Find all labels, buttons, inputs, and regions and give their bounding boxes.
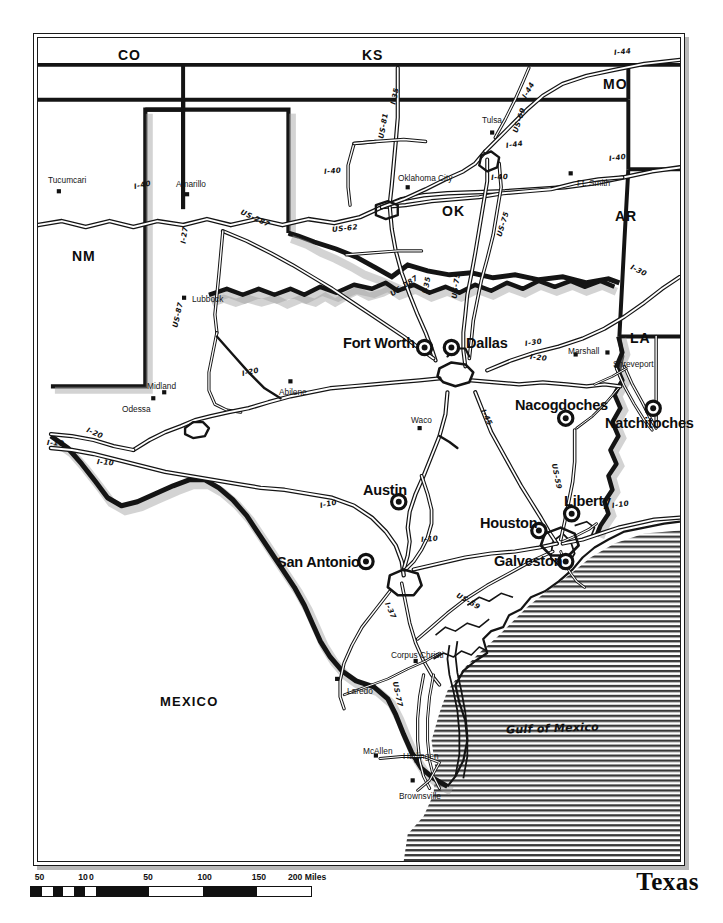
scale-segment-1 (42, 887, 53, 896)
highway-label-us-59-26: US-59 (550, 463, 562, 490)
city-label-liberty: Liberty (564, 494, 611, 509)
scale-segment-6 (96, 887, 150, 896)
highway-label-i-20-20: I-20 (241, 366, 259, 377)
highway-label-i-45-23: I-45 (480, 408, 494, 427)
gulf-of-mexico-label: Gulf of Mexico (506, 721, 599, 735)
city-label-dallas: Dallas (466, 336, 508, 351)
map-frame: COKSMOOKARNMLAMEXICOFort WorthDallasNaco… (33, 33, 685, 866)
scale-bar-tick-labels: 5010050100150200 Miles (30, 872, 330, 884)
city-label-abilene: Abilene (279, 388, 307, 396)
state-label-ar: AR (615, 209, 637, 223)
highway-label-i-44-2: I-44 (521, 81, 536, 100)
city-label-marshall: Marshall (568, 347, 599, 355)
city-label-lubbock: Lubbock (192, 295, 223, 303)
scale-segment-9 (257, 887, 311, 896)
highway-label-i-30-14: I-30 (629, 263, 648, 277)
map-label-layer: COKSMOOKARNMLAMEXICOFort WorthDallasNaco… (38, 38, 680, 861)
state-label-ok: OK (442, 204, 465, 218)
highway-label-i-10-24: I-10 (47, 439, 65, 447)
state-label-mo: MO (603, 77, 628, 91)
scale-segment-0 (31, 887, 42, 896)
scale-segment-7 (149, 887, 203, 896)
state-label-la: LA (630, 331, 651, 345)
scale-segment-3 (63, 887, 74, 896)
city-label-shreveport: Shreveport (613, 360, 654, 368)
highway-label-i-37-31: I-37 (384, 601, 398, 620)
city-label-tucumcari: Tucumcari (48, 176, 86, 184)
highway-label-i-30-19: I-30 (524, 338, 542, 348)
city-label-laredo: Laredo (347, 687, 373, 695)
scale-bar-segments (30, 886, 312, 897)
city-label-houston: Houston (480, 516, 537, 531)
state-label-nm: NM (72, 249, 96, 263)
scale-tick-1: 10 (78, 872, 88, 882)
city-label-galveston: Galveston (494, 554, 562, 569)
city-label-austin: Austin (363, 483, 407, 498)
city-label-fort-worth: Fort Worth (343, 336, 415, 351)
city-label-odessa: Odessa (122, 405, 151, 413)
scale-bar: 5010050100150200 Miles (30, 872, 330, 906)
city-label-natchitoches: Natchitoches (605, 416, 694, 431)
highway-label-i-20-21: I-20 (530, 353, 548, 362)
highway-label-i-40-9: I-40 (133, 179, 151, 190)
highway-label-i-10-29: I-10 (611, 500, 629, 510)
highway-label-us-75-13: US-75 (496, 211, 510, 238)
city-label-corpus-christi: Corpus Christi (391, 651, 444, 659)
city-label-waco: Waco (411, 416, 432, 424)
map-frame-inner-border: COKSMOOKARNMLAMEXICOFort WorthDallasNaco… (37, 37, 681, 862)
scale-tick-4: 100 (198, 872, 212, 882)
city-label-harlingen: Harlingen (403, 752, 439, 760)
city-label-tulsa: Tulsa (482, 116, 502, 124)
scale-tick-6: 200 Miles (288, 872, 326, 882)
scale-segment-8 (203, 887, 257, 896)
highway-label-i-40-4: I-40 (324, 167, 342, 176)
scale-tick-2: 0 (89, 872, 94, 882)
highway-label-us-87-18: US-87 (171, 301, 183, 328)
state-label-ks: KS (362, 48, 383, 62)
highway-label-us-77-32: US-77 (391, 681, 403, 708)
city-label-midland: Midland (147, 382, 176, 390)
city-label-ft-smith: Ft. Smith (577, 179, 610, 187)
highway-label-us-59-30: US-59 (455, 591, 481, 610)
map-title: Texas (636, 868, 699, 896)
highway-label-us-75-17: US-75 (450, 272, 461, 299)
city-label-mcallen: McAllen (363, 747, 393, 755)
scale-segment-4 (74, 887, 85, 896)
highway-label-i-44-5: I-44 (505, 140, 523, 150)
scale-segment-2 (53, 887, 64, 896)
highway-label-i-35-16: I-35 (421, 276, 431, 294)
highway-label-us-69-7: US-69 (512, 107, 527, 134)
city-label-amarillo: Amarillo (176, 180, 206, 188)
highway-label-i-20-22: I-20 (86, 426, 105, 440)
city-label-oklahoma-city: Oklahoma City (398, 174, 452, 182)
scale-segment-5 (85, 887, 96, 896)
highway-label-us-81-3: US-81 (377, 112, 389, 139)
highway-label-i-10-27: I-10 (319, 498, 337, 509)
highway-label-i-10-28: I-10 (421, 535, 439, 544)
highway-label-i-40-6: I-40 (491, 173, 509, 181)
highway-label-i-27-12: I-27 (179, 226, 189, 244)
scale-tick-5: 150 (252, 872, 266, 882)
country-label-mexico: MEXICO (160, 695, 218, 708)
highway-label-us-287-15: US-287 (389, 274, 419, 298)
city-label-nacogdoches: Nacogdoches (515, 398, 608, 413)
city-label-san-antonio: San Antonio (277, 555, 360, 570)
city-label-brownsville: Brownsville (399, 792, 441, 800)
scale-tick-3: 50 (143, 872, 153, 882)
highway-label-i-10-25: I-10 (97, 458, 115, 467)
highway-label-us-62-11: US-62 (332, 223, 359, 233)
highway-label-i-44-0: I-44 (614, 47, 632, 56)
highway-label-i-40-8: I-40 (609, 153, 627, 162)
scale-tick-0: 50 (35, 872, 45, 882)
highway-label-us-287-10: US-287 (239, 208, 271, 228)
highway-label-i-35-1: I-35 (389, 87, 400, 105)
state-label-co: CO (118, 48, 141, 62)
